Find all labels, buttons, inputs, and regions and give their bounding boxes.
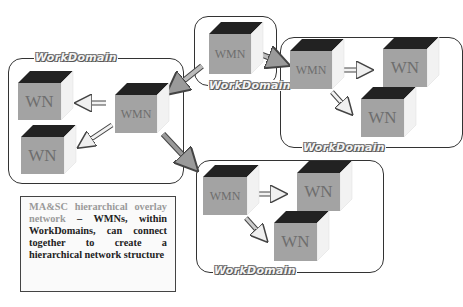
node-wn-right-1: WN — [383, 37, 439, 87]
node-label: WN — [21, 137, 64, 174]
node-label: WMN — [115, 95, 157, 133]
arrow-left-wn2 — [82, 125, 112, 145]
arrow-top-to-left — [172, 66, 202, 90]
node-label: WN — [274, 223, 317, 261]
node-wmn-top: WMN — [209, 22, 263, 74]
node-label: WN — [297, 173, 340, 211]
node-wmn-left: WMN — [115, 83, 169, 133]
arrow-bottom-wn2 — [246, 218, 264, 238]
node-wmn-bottom: WMN — [203, 165, 259, 215]
node-label: WN — [383, 49, 427, 87]
node-label: WMN — [290, 51, 332, 89]
node-wn-right-2: WN — [361, 87, 416, 137]
node-wmn-right: WMN — [290, 39, 344, 89]
note-dash: – — [66, 213, 94, 224]
node-wn-bottom-2: WN — [274, 211, 329, 261]
node-label: WN — [361, 99, 404, 137]
node-wn-bottom-1: WN — [297, 161, 352, 211]
description-note: MA&SC hierarchical overlay network – WMN… — [20, 196, 176, 292]
arrow-left-to-bottom — [163, 134, 193, 166]
node-wn-left-1: WN — [18, 71, 73, 120]
node-label: WMN — [203, 177, 247, 215]
node-wn-left-2: WN — [21, 125, 76, 174]
node-label: WMN — [209, 34, 251, 74]
node-label: WN — [18, 83, 61, 120]
arrow-right-wn2 — [332, 92, 349, 111]
